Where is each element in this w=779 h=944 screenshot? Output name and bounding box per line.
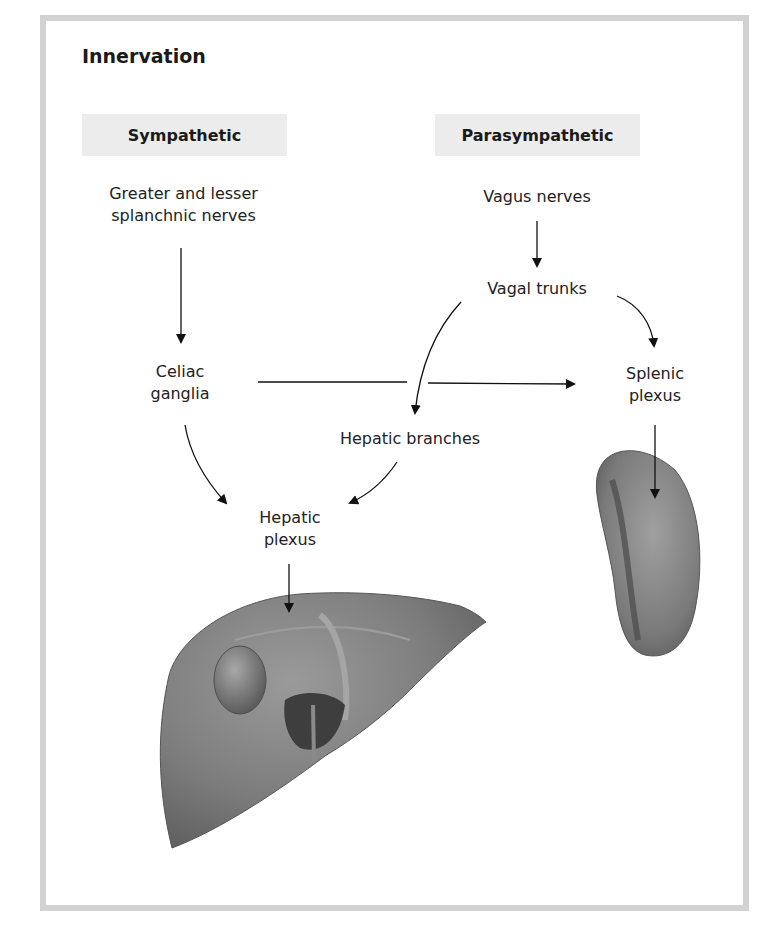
node-hepatic-plexus-line2: plexus — [250, 529, 330, 551]
arrow-celiac-to-hepatic-plexus — [185, 425, 226, 503]
node-celiac-ganglia: Celiac ganglia — [140, 361, 220, 405]
node-splenic-plexus: Splenic plexus — [615, 363, 695, 407]
node-hepatic-branches-label: Hepatic branches — [340, 429, 480, 448]
node-celiac-line1: Celiac — [140, 361, 220, 383]
node-splenic-line1: Splenic — [615, 363, 695, 385]
node-hepatic-plexus: Hepatic plexus — [250, 507, 330, 551]
arrow-branches-to-hepatic-plexus — [350, 462, 397, 503]
node-vagal-trunks-label: Vagal trunks — [487, 279, 587, 298]
node-hepatic-branches: Hepatic branches — [330, 428, 490, 450]
diagram-graphics — [0, 0, 779, 944]
arrow-trunks-to-hepatic-branches — [415, 302, 461, 413]
arrow-trunks-to-splenic — [617, 296, 654, 346]
node-hepatic-plexus-line1: Hepatic — [250, 507, 330, 529]
node-splenic-line2: plexus — [615, 385, 695, 407]
node-splanchnic-nerves: Greater and lesser splanchnic nerves — [96, 183, 271, 227]
node-vagus-nerves: Vagus nerves — [470, 186, 604, 208]
arrow-celiac-to-splenic-part2 — [428, 383, 574, 384]
spleen-illustration — [596, 451, 699, 656]
node-vagal-trunks: Vagal trunks — [470, 278, 604, 300]
liver-illustration — [160, 593, 486, 848]
node-celiac-line2: ganglia — [140, 383, 220, 405]
node-splanchnic-line2: splanchnic nerves — [96, 205, 271, 227]
node-splanchnic-line1: Greater and lesser — [96, 183, 271, 205]
node-vagus-label: Vagus nerves — [483, 187, 590, 206]
